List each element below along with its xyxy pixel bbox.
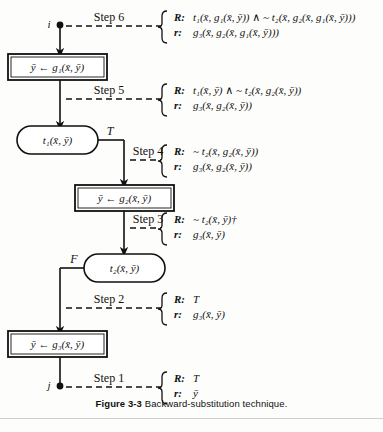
step-annotation-6: Step 6 R: t₁(x̄, g₁(x̄, ȳ)) ∧ ~ t₂(x̄, g… [66, 10, 356, 43]
assignment-node-g2-label: ȳ ← g₂(x̄, ȳ) [97, 192, 152, 205]
figure-caption-text: Backward-substitution technique. [145, 398, 288, 409]
test-node-t1-label: t₁(x̄, ȳ) [43, 134, 73, 147]
step-annotation-4: Step 4 R: ~ t₂(x̄, g₂(x̄, ȳ)) r: g₃(x̄, … [130, 144, 259, 177]
page-bottom-rule [0, 418, 383, 419]
assignment-node-g3: ȳ ← g₃(x̄, ȳ) [8, 331, 107, 357]
step-2-r-value: g₃(x̄, ȳ) [193, 308, 225, 321]
figure-container: i ȳ ← g₁(x̄, ȳ) t₁(x̄, ȳ) T ȳ ← g₂(x̄, ȳ… [0, 0, 383, 432]
step-6-r-key: r: [174, 26, 182, 38]
step-5-r-key: r: [174, 99, 182, 111]
exit-dot [57, 383, 64, 390]
step-4-r-key: r: [174, 160, 182, 172]
step-3-r-key: r: [174, 228, 182, 240]
step-4-r-value: g₃(x̄, g₂(x̄, ȳ)) [193, 160, 252, 173]
step-annotation-3: Step 3 R: ~ t₂(x̄, ȳ)† r: g₃(x̄, ȳ) [130, 212, 237, 245]
step-6-brace [158, 11, 167, 43]
test-node-t1: t₁(x̄, ȳ) T [17, 124, 115, 154]
assignment-node-g1: ȳ ← g₁(x̄, ȳ) [8, 54, 107, 80]
step-2-r-key: r: [174, 308, 182, 320]
step-4-R-key: R: [173, 145, 185, 157]
step-2-R-value: T [193, 293, 200, 305]
step-6-label: Step 6 [94, 10, 124, 24]
step-2-R-key: R: [173, 293, 185, 305]
step-2-brace [158, 293, 167, 325]
figure-caption: Figure 3-3 Backward-substitution techniq… [0, 398, 383, 409]
assignment-node-g1-label: ȳ ← g₁(x̄, ȳ) [30, 61, 85, 74]
test-node-t2: t₂(x̄, ȳ) F [69, 252, 165, 282]
step-1-R-value: T [193, 372, 200, 384]
step-3-R-value: ~ t₂(x̄, ȳ)† [193, 213, 237, 226]
assignment-node-g3-label: ȳ ← g₃(x̄, ȳ) [30, 338, 85, 351]
step-4-label: Step 4 [133, 144, 163, 158]
step-3-label: Step 3 [133, 212, 163, 226]
step-5-R-value: t₁(x̄, ȳ) ∧ ~ t₂(x̄, g₂(x̄, ȳ)) [193, 84, 302, 97]
test-node-t2-false-branch-label: F [69, 252, 78, 266]
step-5-brace [158, 84, 167, 116]
entry-node: i [47, 18, 63, 30]
step-annotation-5: Step 5 R: t₁(x̄, ȳ) ∧ ~ t₂(x̄, g₂(x̄, ȳ)… [66, 83, 302, 116]
step-5-label: Step 5 [94, 83, 124, 97]
entry-node-label: i [47, 18, 50, 30]
step-2-label: Step 2 [94, 292, 124, 306]
step-annotation-2: Step 2 R: T r: g₃(x̄, ȳ) [66, 292, 225, 325]
assignment-node-g2: ȳ ← g₂(x̄, ȳ) [75, 185, 174, 211]
test-node-t2-label: t₂(x̄, ȳ) [110, 262, 140, 275]
figure-caption-number: Figure 3-3 [96, 398, 142, 409]
flowchart-diagram: i ȳ ← g₁(x̄, ȳ) t₁(x̄, ȳ) T ȳ ← g₂(x̄, ȳ… [0, 0, 383, 432]
step-1-label: Step 1 [94, 371, 124, 385]
entry-dot [57, 22, 64, 29]
exit-node-label: j [45, 379, 50, 391]
step-4-R-value: ~ t₂(x̄, g₂(x̄, ȳ)) [193, 145, 259, 158]
test-node-t1-true-branch-label: T [107, 124, 115, 138]
step-6-r-value: g₃(x̄, g₂(x̄, g₁(x̄, ȳ))) [193, 26, 279, 39]
step-5-R-key: R: [173, 84, 185, 96]
step-6-R-key: R: [173, 11, 185, 23]
step-3-R-key: R: [173, 213, 185, 225]
step-5-r-value: g₃(x̄, g₂(x̄, ȳ)) [193, 99, 252, 112]
step-6-R-value: t₁(x̄, g₁(x̄, ȳ)) ∧ ~ t₂(x̄, g₂(x̄, g₁(x… [193, 11, 356, 24]
step-3-r-value: g₃(x̄, ȳ) [193, 228, 225, 241]
step-1-R-key: R: [173, 372, 185, 384]
